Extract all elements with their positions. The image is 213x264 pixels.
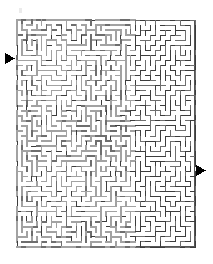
maze-canvas <box>0 0 213 264</box>
exit-arrow-icon <box>196 165 206 176</box>
maze-figure <box>0 0 213 264</box>
maze-page <box>0 0 213 264</box>
entrance-arrow-icon <box>5 53 15 64</box>
